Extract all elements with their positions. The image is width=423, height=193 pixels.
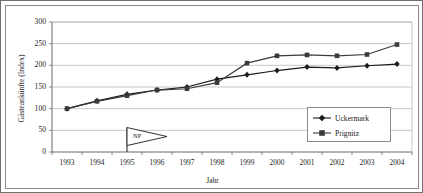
x-axis-title: Jahr: [1, 176, 423, 185]
chart-canvas: [6, 6, 420, 190]
chart-legend: Uckermark Prignitz: [307, 107, 391, 142]
legend-item-prignitz[interactable]: Prignitz: [312, 127, 359, 139]
data-series-layer: [64, 42, 399, 111]
legend-marker-square-icon: [312, 128, 332, 138]
np-flag-label: NP: [133, 132, 142, 139]
legend-marker-diamond-icon: [312, 113, 332, 123]
chart-plot-container: Gästeankünfte (Index) 050100150200250300…: [5, 5, 419, 189]
legend-item-uckermark[interactable]: Uckermark: [312, 112, 369, 124]
legend-label-uckermark: Uckermark: [335, 114, 369, 123]
legend-label-prignitz: Prignitz: [335, 129, 359, 138]
chart-figure: Gästeankünfte (Index) 050100150200250300…: [0, 0, 423, 193]
